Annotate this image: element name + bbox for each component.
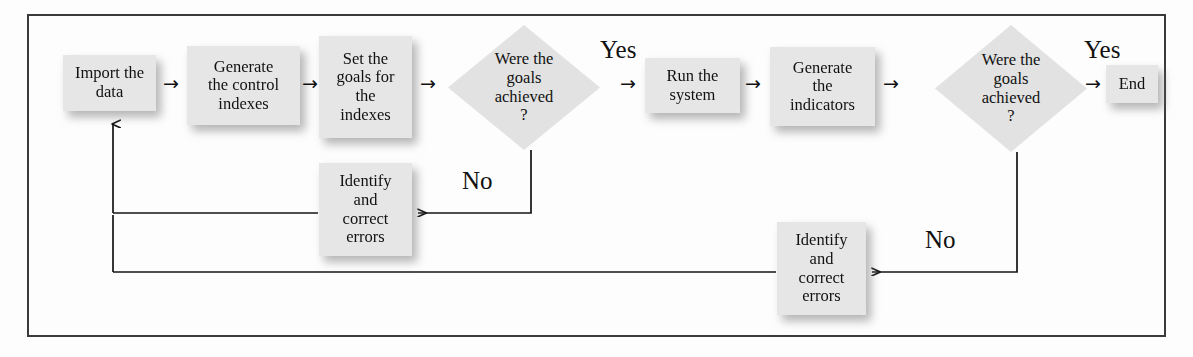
node-identify-correct-2: Identify and correct errors	[777, 222, 866, 315]
arrow-import-to-generate-icon: →	[163, 74, 179, 93]
node-import-data: Import the data	[63, 55, 156, 111]
node-identify-correct-1: Identify and correct errors	[319, 163, 412, 256]
node-generate-control-indexes-label: Generate the control indexes	[205, 58, 282, 114]
edge-label-no-2: No	[925, 226, 956, 254]
edge-label-yes-1: Yes	[600, 36, 636, 64]
flowchart-canvas: Import the data → Generate the control i…	[0, 0, 1193, 357]
arrow-indicators-to-decision2-icon: →	[883, 74, 899, 93]
node-run-system: Run the system	[645, 58, 740, 113]
node-set-goals: Set the goals for the indexes	[319, 36, 412, 138]
arrow-decision2-to-end-icon: →	[1085, 74, 1101, 93]
node-decision-1-label: Were the goals achieved ?	[448, 25, 600, 150]
edge-label-yes-2: Yes	[1084, 36, 1120, 64]
node-end-label: End	[1116, 75, 1149, 94]
node-decision-1: Were the goals achieved ?	[448, 25, 600, 150]
node-import-data-label: Import the data	[72, 64, 147, 101]
node-run-system-label: Run the system	[664, 67, 722, 104]
node-decision-2: Were the goals achieved ?	[935, 25, 1087, 152]
arrow-generate-to-setgoals-icon: →	[302, 74, 318, 93]
node-identify-correct-1-label: Identify and correct errors	[336, 172, 394, 247]
node-generate-indicators-label: Generate the indicators	[787, 59, 858, 115]
arrow-setgoals-to-decision1-icon: →	[420, 74, 436, 93]
node-set-goals-label: Set the goals for the indexes	[333, 50, 397, 125]
node-generate-control-indexes: Generate the control indexes	[187, 46, 300, 125]
edge-label-no-1: No	[462, 167, 493, 195]
node-identify-correct-2-label: Identify and correct errors	[792, 231, 850, 306]
node-generate-indicators: Generate the indicators	[770, 47, 875, 126]
arrow-runsystem-to-indicators-icon: →	[745, 74, 761, 93]
node-end: End	[1106, 65, 1158, 103]
node-decision-2-label: Were the goals achieved ?	[935, 25, 1087, 152]
arrow-decision1-to-runsystem-icon: →	[620, 74, 636, 93]
